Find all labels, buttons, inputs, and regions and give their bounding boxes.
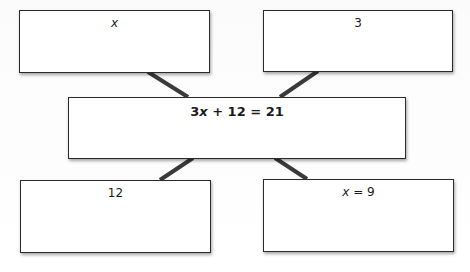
solution-value: = 9 (349, 185, 374, 199)
center-equation-box: 3x + 12 = 21 (68, 97, 406, 159)
box-bottom-right-label: x = 9 (342, 185, 374, 199)
connector-bottom-right (275, 158, 307, 179)
connector-top-right (280, 71, 318, 97)
box-top-right-label: 3 (354, 16, 362, 30)
connector-bottom-left (160, 158, 193, 180)
box-bottom-left-label: 12 (108, 186, 123, 200)
box-top-right: 3 (263, 10, 453, 72)
connector-top-left (148, 72, 188, 97)
center-equation: 3x + 12 = 21 (190, 103, 284, 119)
equation-rest: + 12 = 21 (208, 104, 284, 119)
diagram-canvas: x 3 3x + 12 = 21 12 x = 9 (0, 0, 470, 272)
equation-coefficient: 3 (190, 104, 199, 119)
box-bottom-left: 12 (20, 180, 211, 253)
box-bottom-right: x = 9 (263, 179, 454, 252)
equation-variable: x (199, 104, 207, 119)
box-top-left-label: x (111, 16, 118, 30)
box-top-left: x (19, 10, 210, 73)
variable-x: x (111, 16, 118, 30)
